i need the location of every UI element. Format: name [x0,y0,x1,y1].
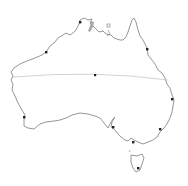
city-marker-hobart [137,167,139,169]
city-marker-adelaide [112,126,114,128]
small-island [129,150,130,152]
city-marker-alice-springs [94,74,96,76]
city-marker-perth [23,116,25,118]
city-marker-brisbane [171,98,173,100]
city-marker-sydney [159,128,161,130]
city-marker-melbourne [132,141,134,143]
lake-feature [88,21,94,32]
city-marker-darwin [79,21,81,23]
city-markers [23,21,173,169]
mainland-coastline [11,18,174,144]
australia-map [0,0,188,186]
city-marker-cairns [146,48,148,50]
latitude-line [13,74,168,80]
city-marker-broome [45,51,47,53]
island-marker [107,24,110,27]
